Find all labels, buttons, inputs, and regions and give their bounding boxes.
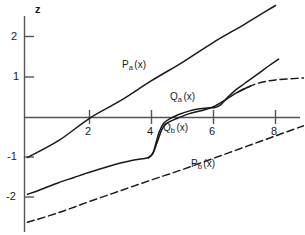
y-axis-title: z [35, 4, 41, 15]
y-tick-label-minus-2: -2 [6, 191, 16, 202]
curve-label-pb-arg: (x) [203, 158, 215, 169]
plot-area [0, 0, 304, 235]
y-tick-marks [25, 37, 35, 198]
curve-label-qa-arg: (x) [183, 91, 195, 102]
y-tick-label-2: 2 [11, 31, 17, 42]
curve-label-pa-arg: (x) [134, 59, 146, 70]
chart-figure: z 2 1 -1 -2 2 4 6 8 Pa(x) Qa(x) Qb(x) Pb… [0, 0, 304, 235]
y-tick-label-minus-1: -1 [7, 151, 17, 162]
y-tick-label-1: 1 [13, 71, 19, 82]
data-curves [28, 6, 305, 223]
x-tick-label-8: 8 [271, 126, 277, 137]
curve-label-pb-sub: b [198, 162, 202, 171]
curve-label-pb-base: P [191, 158, 198, 169]
curve-label-qa-sub: a [178, 95, 182, 104]
curve-label-pa-base: P [122, 59, 129, 70]
curve-label-pa: Pa(x) [122, 60, 146, 70]
curve-label-qb: Qb(x) [163, 123, 188, 133]
x-tick-label-6: 6 [209, 126, 215, 137]
curve-label-qb-sub: b [171, 126, 175, 135]
x-tick-label-4: 4 [147, 126, 153, 137]
curve-label-qb-base: Q [163, 122, 171, 133]
curve-label-pb: Pb(x) [191, 159, 215, 169]
curve-label-qb-arg: (x) [176, 122, 188, 133]
curve-label-qa-base: Q [170, 91, 178, 102]
x-tick-label-2: 2 [85, 126, 91, 137]
curve-label-qa: Qa(x) [170, 92, 195, 102]
curve-label-pa-sub: a [129, 63, 133, 72]
curve-pbx [28, 125, 305, 223]
